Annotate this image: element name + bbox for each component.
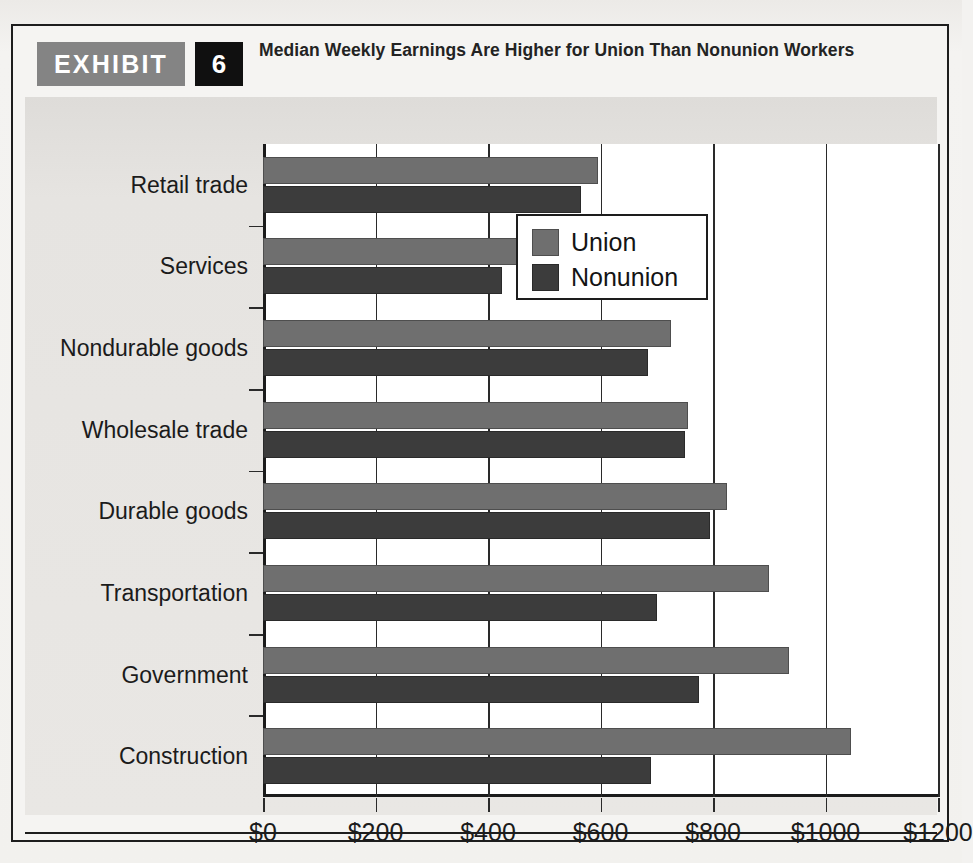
gridline <box>938 144 940 797</box>
legend-label-nonunion: Nonunion <box>571 263 678 292</box>
y-axis-tick <box>249 389 263 391</box>
y-axis-category-label: Services <box>160 253 248 280</box>
x-axis-tick <box>601 798 603 812</box>
y-axis-tick <box>249 715 263 717</box>
y-axis-category-label: Wholesale trade <box>82 416 248 443</box>
exhibit-header: EXHIBIT 6 Median Weekly Earnings Are Hig… <box>13 26 947 96</box>
y-axis-tick <box>249 552 263 554</box>
exhibit-tag-label: EXHIBIT <box>37 42 185 86</box>
gridline <box>713 144 715 797</box>
x-axis-tick <box>488 798 490 812</box>
y-axis-category-label: Durable goods <box>98 498 248 525</box>
y-axis-category-label: Government <box>121 661 248 688</box>
x-axis-tick <box>938 798 940 812</box>
x-axis-tick <box>263 798 265 812</box>
y-axis-tick <box>249 471 263 473</box>
bar-union <box>263 157 598 184</box>
bar-nonunion <box>263 757 651 784</box>
y-axis-tick <box>249 634 263 636</box>
bar-nonunion <box>263 676 699 703</box>
y-axis-category-label: Transportation <box>101 579 248 606</box>
bar-nonunion <box>263 349 648 376</box>
bar-union <box>263 728 851 755</box>
exhibit-number-badge: 6 <box>195 42 243 86</box>
y-axis-category-label: Nondurable goods <box>60 335 248 362</box>
bar-union <box>263 320 671 347</box>
gridline <box>826 144 828 797</box>
y-axis-category-label: Retail trade <box>130 171 248 198</box>
bar-nonunion <box>263 267 502 294</box>
y-axis-tick <box>249 226 263 228</box>
chart-panel: $0$200$400$600$800$1000$1200Retail trade… <box>25 97 937 815</box>
legend-swatch-union <box>532 229 559 256</box>
bar-union <box>263 647 789 674</box>
x-axis-tick <box>713 798 715 812</box>
legend-item-union: Union <box>532 225 706 260</box>
footer-rule <box>25 832 937 834</box>
bar-nonunion <box>263 431 685 458</box>
x-axis-tick <box>826 798 828 812</box>
exhibit-title: Median Weekly Earnings Are Higher for Un… <box>259 39 859 62</box>
bar-union <box>263 565 769 592</box>
legend-label-union: Union <box>571 228 636 257</box>
legend-item-nonunion: Nonunion <box>532 260 706 295</box>
chart-legend: Union Nonunion <box>516 214 708 300</box>
bar-union <box>263 483 727 510</box>
legend-swatch-nonunion <box>532 264 559 291</box>
y-axis-category-label: Construction <box>119 743 248 770</box>
bar-nonunion <box>263 512 710 539</box>
exhibit-frame: EXHIBIT 6 Median Weekly Earnings Are Hig… <box>11 24 949 842</box>
bar-nonunion <box>263 186 581 213</box>
bar-union <box>263 402 688 429</box>
y-axis-tick <box>249 307 263 309</box>
bar-nonunion <box>263 594 657 621</box>
x-axis-tick <box>376 798 378 812</box>
